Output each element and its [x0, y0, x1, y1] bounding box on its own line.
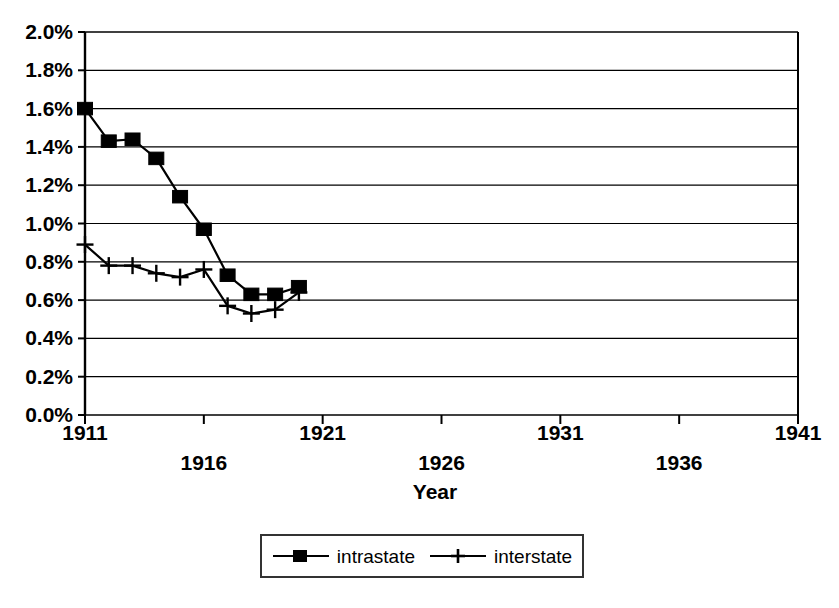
y-tick-label: 0.2%	[0, 366, 73, 387]
chart-legend: intrastate interstate	[260, 534, 584, 578]
x-tick-label: 1921	[278, 422, 368, 443]
y-tick-label: 1.4%	[0, 136, 73, 157]
data-series-layer	[77, 102, 308, 322]
chart-plot-area	[0, 0, 839, 608]
y-tick-label: 1.2%	[0, 174, 73, 195]
series-intrastate	[78, 102, 307, 300]
y-tick-label: 1.8%	[0, 59, 73, 80]
legend-entry-intrastate: intrastate	[272, 546, 415, 566]
gridlines	[85, 32, 798, 415]
x-tick-label: 1931	[515, 422, 605, 443]
x-axis-title: Year	[335, 481, 535, 502]
x-axis-ticks	[85, 415, 798, 424]
y-tick-label: 2.0%	[0, 21, 73, 42]
plus-marker-icon	[429, 546, 487, 566]
y-tick-label: 0.6%	[0, 289, 73, 310]
y-tick-label: 0.4%	[0, 327, 73, 348]
x-tick-label: 1911	[40, 422, 130, 443]
legend-entry-interstate: interstate	[429, 546, 572, 566]
series-interstate	[77, 236, 308, 322]
chart-container: 2.0%1.8%1.6%1.4%1.2%1.0%0.8%0.6%0.4%0.2%…	[0, 0, 839, 608]
x-tick-label: 1926	[397, 452, 487, 473]
y-tick-label: 1.0%	[0, 213, 73, 234]
x-tick-label: 1936	[634, 452, 724, 473]
y-tick-label: 1.6%	[0, 98, 73, 119]
square-marker-icon	[272, 546, 330, 566]
legend-label-interstate: interstate	[494, 547, 572, 566]
y-tick-label: 0.8%	[0, 251, 73, 272]
legend-label-intrastate: intrastate	[337, 547, 415, 566]
x-tick-label: 1941	[753, 422, 839, 443]
x-tick-label: 1916	[159, 452, 249, 473]
